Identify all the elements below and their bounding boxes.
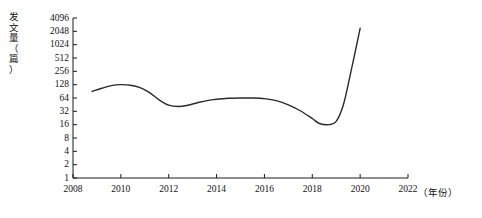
y-tick-label: 32 [60, 106, 70, 116]
x-tick-label: 2014 [207, 184, 226, 194]
x-axis-title: （年份） [418, 187, 458, 198]
x-tick-label: 2018 [303, 184, 322, 194]
y-tick-label: 256 [55, 66, 70, 76]
x-tick-label: 2010 [111, 184, 130, 194]
y-tick-label: 1024 [50, 39, 69, 49]
data-series-line [92, 28, 360, 125]
line-chart-plot: 4096204810245122561286432168421 20082010… [0, 0, 482, 218]
chart-container: 发 文 量 （ 篇 ） 4096204810245122561286432168… [0, 0, 482, 218]
x-tick-label: 2008 [64, 184, 83, 194]
y-tick-label: 64 [60, 93, 70, 103]
y-axis-title: 发 文 量 （ 篇 ） [6, 12, 22, 76]
x-axis-ticks: 20082010201220142016201820202022 [64, 174, 418, 194]
x-tick-label: 2020 [351, 184, 370, 194]
x-tick-label: 2012 [159, 184, 178, 194]
x-tick-label: 2022 [399, 184, 418, 194]
y-tick-label: 1 [64, 173, 69, 183]
y-tick-label: 8 [64, 133, 69, 143]
y-tick-label: 2 [64, 159, 69, 169]
y-tick-label: 128 [55, 79, 70, 89]
y-tick-label: 16 [60, 119, 70, 129]
y-tick-label: 4 [64, 146, 69, 156]
x-tick-label: 2016 [255, 184, 274, 194]
y-tick-label: 512 [55, 53, 70, 63]
y-tick-label: 2048 [50, 26, 69, 36]
y-tick-label: 4096 [50, 13, 69, 23]
